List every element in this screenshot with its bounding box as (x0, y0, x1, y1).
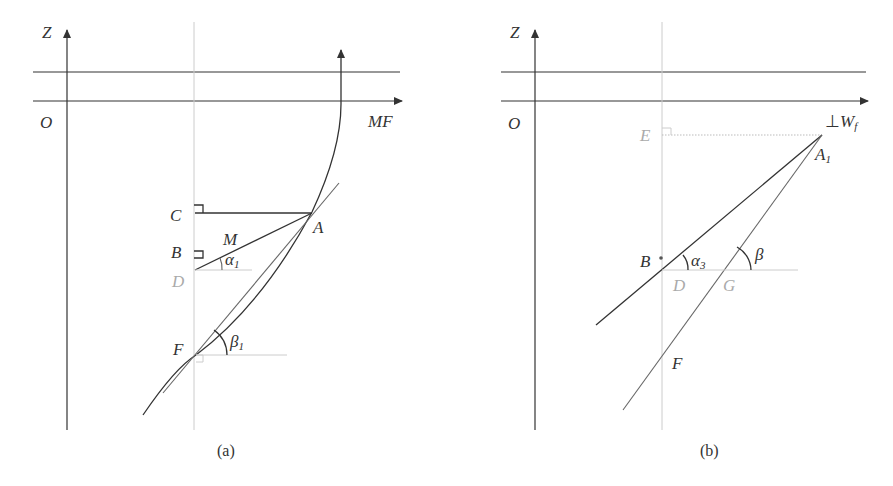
angle-beta-label: β (754, 245, 764, 264)
angle-beta1-label: β1 (229, 332, 244, 352)
right-angle-f (196, 355, 203, 362)
point-a-label: A (312, 218, 324, 237)
point-e-label: E (639, 126, 651, 145)
right-angle-b (194, 251, 203, 258)
point-b-label: B (171, 243, 182, 262)
point-d-label: D (672, 276, 686, 295)
z-axis-label: Z (42, 23, 52, 42)
point-g-label: G (723, 276, 735, 295)
origin-label: O (508, 114, 520, 133)
angle-arc-alpha3 (683, 255, 688, 270)
line-a1-b (596, 135, 822, 325)
point-f-label: F (172, 340, 184, 359)
point-m-label: M (222, 230, 238, 249)
right-angle-c (194, 205, 203, 213)
diagram-canvas: Z O MF C B D M A F α1 β1 (a) (0, 0, 893, 486)
mf-curve (143, 50, 341, 415)
point-c-label: C (170, 206, 182, 225)
panel-a: Z O MF C B D M A F α1 β1 (a) (33, 22, 402, 460)
z-axis-label: Z (510, 23, 520, 42)
angle-alpha3-label: α3 (691, 251, 706, 271)
line-a1-g-f (623, 135, 822, 410)
wf-axis-label: ⊥Wf (825, 112, 859, 132)
panel-b: Z O ⊥Wf E A1 B D G F α3 β (b) (501, 22, 868, 460)
angle-alpha1-label: α1 (225, 250, 239, 270)
point-b-label: B (640, 252, 651, 271)
tangent-line-af (163, 183, 339, 393)
caption-a: (a) (217, 442, 235, 460)
point-d-label: D (171, 272, 185, 291)
mf-axis-label: MF (367, 112, 393, 131)
caption-b: (b) (700, 442, 719, 460)
origin-label: O (40, 113, 52, 132)
point-f-label: F (671, 354, 683, 373)
point-b-marker (659, 256, 663, 260)
right-angle-e (662, 128, 671, 135)
point-a1-label: A1 (814, 145, 831, 165)
angle-arc-alpha1 (220, 258, 222, 270)
